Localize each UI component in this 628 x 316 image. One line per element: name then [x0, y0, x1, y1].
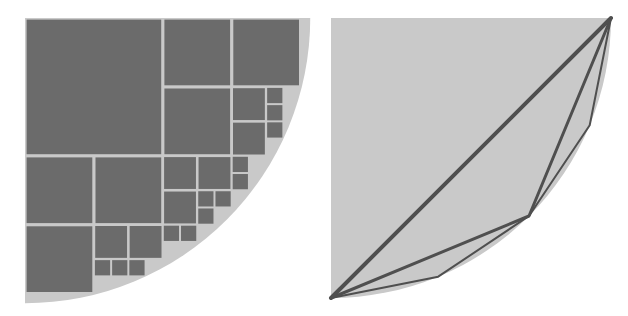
inscribed-square [27, 157, 93, 223]
inscribed-square [95, 260, 110, 275]
inscribed-square [164, 192, 196, 224]
inscribed-square [130, 226, 162, 258]
inscribed-square [112, 260, 127, 275]
inscribed-square [96, 157, 162, 223]
squares-approximation-panel [0, 0, 314, 316]
inscribed-square [267, 88, 282, 103]
inscribed-square [233, 88, 265, 120]
inscribed-square [198, 208, 213, 223]
inscribed-square [164, 20, 230, 86]
inscribed-square [27, 226, 93, 292]
quarter-disc-squares-figure [0, 0, 314, 316]
inscribed-square [164, 226, 179, 241]
inscribed-square [164, 89, 230, 155]
inscribed-square [181, 226, 196, 241]
inscribed-square [164, 157, 196, 189]
inscribed-square [267, 122, 282, 137]
inscribed-square [233, 20, 299, 86]
inscribed-square [95, 226, 127, 258]
quarter-disc-polygons-figure [314, 0, 628, 316]
inscribed-square [129, 260, 144, 275]
inscribed-square [233, 174, 248, 189]
inscribed-square [199, 157, 231, 189]
polygon-approximation-panel [314, 0, 628, 316]
inscribed-square [198, 191, 213, 206]
inscribed-square [267, 105, 282, 120]
inscribed-square [233, 157, 248, 172]
inscribed-square [215, 191, 230, 206]
inscribed-square [233, 123, 265, 155]
inscribed-square [27, 20, 162, 155]
